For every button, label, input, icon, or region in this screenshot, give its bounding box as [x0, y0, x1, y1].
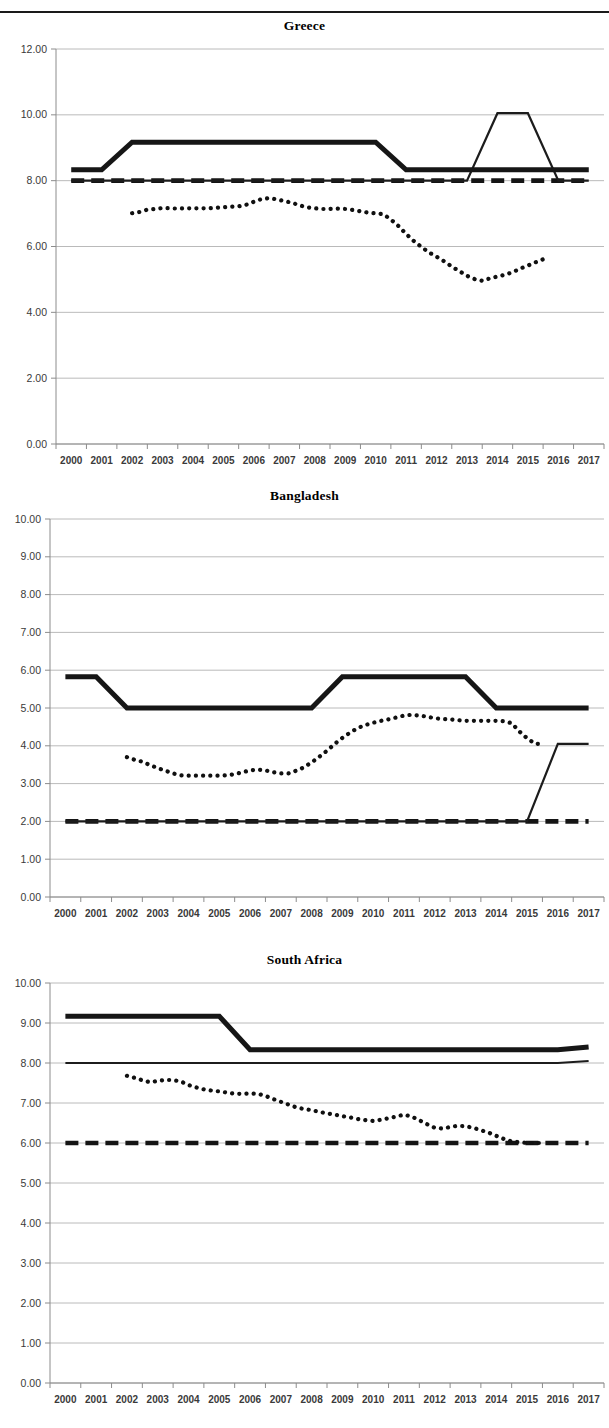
y-axis-tick-label: 5.00	[21, 702, 42, 714]
series-line-thin-solid	[65, 744, 588, 821]
x-axis-tick-label: 2011	[395, 455, 417, 466]
x-axis-tick-label: 2008	[300, 1394, 323, 1405]
chart-plot-south-africa: 0.001.002.003.004.005.006.007.008.009.00…	[0, 971, 609, 1423]
x-axis-tick-label: 2002	[116, 1394, 139, 1405]
x-axis-tick-label: 2014	[486, 455, 509, 466]
chart-title-south-africa: South Africa	[0, 952, 609, 971]
x-axis-tick-label: 2017	[577, 1394, 600, 1405]
x-axis-tick-label: 2008	[300, 908, 323, 919]
y-axis-tick-label: 2.00	[21, 815, 42, 827]
x-axis-tick-label: 2015	[516, 1394, 539, 1405]
x-axis-tick-label: 2014	[485, 1394, 508, 1405]
x-axis-tick-label: 2009	[331, 908, 354, 919]
x-axis-tick-label: 2001	[85, 1394, 108, 1405]
x-axis-tick-label: 2016	[547, 908, 570, 919]
x-axis-tick-label: 2004	[177, 1394, 200, 1405]
x-axis-tick-label: 2007	[273, 455, 296, 466]
x-axis-tick-label: 2000	[60, 455, 83, 466]
x-axis-tick-label: 2010	[365, 455, 388, 466]
series-line-thick-solid	[65, 1016, 588, 1050]
x-axis-tick-label: 2010	[362, 1394, 385, 1405]
x-axis-tick-label: 2015	[517, 455, 540, 466]
x-axis-tick-label: 2012	[424, 908, 447, 919]
x-axis-tick-label: 2015	[516, 908, 539, 919]
chart-south-africa: South Africa 0.001.002.003.004.005.006.0…	[0, 952, 609, 1428]
chart-bangladesh: Bangladesh 0.001.002.003.004.005.006.007…	[0, 488, 609, 940]
x-axis-tick-label: 2009	[334, 455, 357, 466]
y-axis-tick-label: 4.00	[21, 739, 42, 751]
y-axis-tick-label: 12.00	[21, 43, 47, 55]
x-axis-tick-label: 2005	[212, 455, 235, 466]
series-line-dotted-index	[127, 715, 543, 776]
x-axis-tick-label: 2012	[424, 1394, 447, 1405]
y-axis-tick-label: 5.00	[21, 1177, 42, 1189]
document-page: Greece 0.002.004.006.008.0010.0012.00200…	[0, 0, 609, 1428]
y-axis-tick-label: 4.00	[27, 306, 48, 318]
x-axis-tick-label: 2012	[425, 455, 448, 466]
x-axis-tick-label: 2007	[270, 1394, 293, 1405]
x-axis-tick-label: 2013	[454, 908, 477, 919]
x-axis-tick-label: 2017	[577, 908, 600, 919]
chart-plot-bangladesh: 0.001.002.003.004.005.006.007.008.009.00…	[0, 507, 609, 935]
y-axis-tick-label: 7.00	[21, 1097, 42, 1109]
y-axis-tick-label: 8.00	[21, 1057, 42, 1069]
y-axis-tick-label: 3.00	[21, 777, 42, 789]
y-axis-tick-label: 6.00	[27, 240, 48, 252]
y-axis-tick-label: 9.00	[21, 1017, 42, 1029]
x-axis-tick-label: 2013	[454, 1394, 477, 1405]
x-axis-tick-label: 2003	[147, 1394, 170, 1405]
x-axis-tick-label: 2013	[456, 455, 479, 466]
y-axis-tick-label: 0.00	[27, 438, 48, 450]
x-axis-tick-label: 2002	[121, 455, 144, 466]
chart-plot-greece: 0.002.004.006.008.0010.0012.002000200120…	[0, 37, 609, 482]
page-top-rule	[0, 11, 609, 13]
y-axis-tick-label: 6.00	[21, 1137, 42, 1149]
x-axis-tick-label: 2016	[547, 455, 570, 466]
x-axis-tick-label: 2014	[485, 908, 508, 919]
chart-title-greece: Greece	[0, 18, 609, 37]
x-axis-tick-label: 2003	[151, 455, 174, 466]
x-axis-tick-label: 2011	[393, 908, 415, 919]
y-axis-tick-label: 1.00	[21, 853, 42, 865]
x-axis-tick-label: 2010	[362, 908, 385, 919]
y-axis-tick-label: 1.00	[21, 1337, 42, 1349]
x-axis-tick-label: 2008	[304, 455, 327, 466]
x-axis-tick-label: 2005	[208, 1394, 231, 1405]
y-axis-tick-label: 7.00	[21, 626, 42, 638]
x-axis-tick-label: 2005	[208, 908, 231, 919]
y-axis-tick-label: 9.00	[21, 550, 42, 562]
series-line-thick-solid	[71, 142, 589, 170]
x-axis-tick-label: 2006	[239, 908, 262, 919]
x-axis-tick-label: 2001	[91, 455, 114, 466]
x-axis-tick-label: 2006	[239, 1394, 262, 1405]
x-axis-tick-label: 2001	[85, 908, 108, 919]
y-axis-tick-label: 0.00	[21, 891, 42, 903]
x-axis-tick-label: 2003	[147, 908, 170, 919]
x-axis-tick-label: 2017	[578, 455, 601, 466]
series-line-dotted-index	[127, 1076, 543, 1143]
y-axis-tick-label: 2.00	[21, 1297, 42, 1309]
y-axis-tick-label: 10.00	[15, 513, 41, 525]
x-axis-tick-label: 2007	[270, 908, 293, 919]
x-axis-tick-label: 2000	[54, 1394, 77, 1405]
series-line-thin-solid	[65, 1061, 588, 1063]
x-axis-tick-label: 2016	[547, 1394, 570, 1405]
x-axis-tick-label: 2006	[243, 455, 266, 466]
y-axis-tick-label: 10.00	[21, 108, 47, 120]
x-axis-tick-label: 2000	[54, 908, 77, 919]
series-line-thick-solid	[65, 677, 588, 708]
y-axis-tick-label: 8.00	[21, 588, 42, 600]
y-axis-tick-label: 6.00	[21, 664, 42, 676]
series-line-dotted-index	[132, 198, 543, 281]
chart-greece: Greece 0.002.004.006.008.0010.0012.00200…	[0, 18, 609, 488]
x-axis-tick-label: 2004	[177, 908, 200, 919]
y-axis-tick-label: 4.00	[21, 1217, 42, 1229]
y-axis-tick-label: 8.00	[27, 174, 48, 186]
y-axis-tick-label: 2.00	[27, 372, 48, 384]
x-axis-tick-label: 2004	[182, 455, 205, 466]
y-axis-tick-label: 3.00	[21, 1257, 42, 1269]
y-axis-tick-label: 0.00	[21, 1377, 42, 1389]
x-axis-tick-label: 2011	[393, 1394, 415, 1405]
x-axis-tick-label: 2002	[116, 908, 139, 919]
x-axis-tick-label: 2009	[331, 1394, 354, 1405]
